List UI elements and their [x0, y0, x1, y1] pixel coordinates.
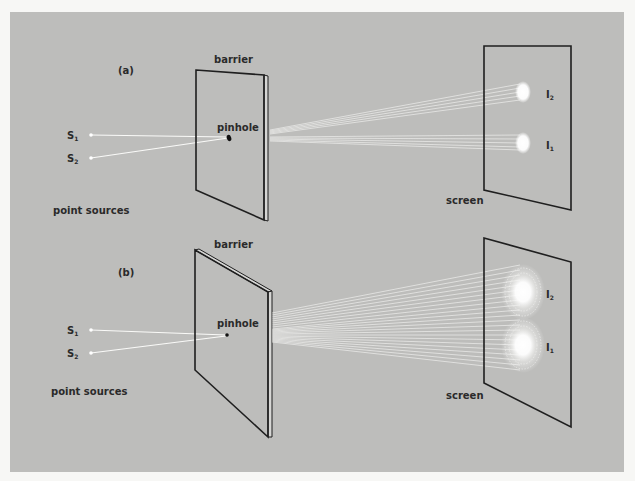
- source-s1-dot: [89, 133, 93, 137]
- barrier-label: barrier: [214, 239, 253, 250]
- point-sources-label: point sources: [51, 386, 127, 397]
- figure: (a) S1 S2 point sources barrier pinhole: [0, 0, 635, 481]
- source-s1-dot: [89, 328, 93, 332]
- image-spot-i2: [515, 81, 531, 103]
- blurred-images: [501, 264, 545, 373]
- barrier-top-edge: [195, 249, 272, 292]
- beam-to-i2: [270, 84, 520, 134]
- image-i1-label: I1: [546, 342, 554, 354]
- source-s2-dot: [89, 156, 93, 160]
- ray-s1-to-pinhole: [91, 330, 226, 335]
- screen: [484, 46, 571, 210]
- source-s1-label: S1: [67, 325, 78, 337]
- pinhole: [225, 333, 229, 337]
- image-i2-label: I2: [546, 289, 554, 301]
- ray-s1-to-pinhole: [91, 135, 228, 137]
- panel-b: (b) S1 S2 point sources barrier pinhole: [51, 238, 571, 437]
- image-i1-label: I1: [546, 140, 554, 152]
- point-sources-label: point sources: [53, 205, 129, 216]
- beam-to-i1: [270, 135, 520, 150]
- screen-label: screen: [446, 390, 484, 401]
- pinhole-label: pinhole: [217, 122, 259, 133]
- image-spot-i1: [515, 132, 531, 154]
- image-spot-i1: [501, 317, 545, 373]
- source-s1-label: S1: [67, 130, 78, 142]
- source-s2-label: S2: [67, 153, 78, 165]
- barrier: [196, 70, 264, 220]
- panel-a-tag: (a): [118, 65, 134, 76]
- source-s2-dot: [89, 351, 93, 355]
- pinhole-diagram: (a) S1 S2 point sources barrier pinhole: [0, 0, 635, 481]
- source-s2-label: S2: [67, 348, 78, 360]
- beam-fan: [272, 265, 520, 370]
- barrier-label: barrier: [214, 54, 253, 65]
- panel-b-tag: (b): [118, 267, 134, 278]
- panel-a: (a) S1 S2 point sources barrier pinhole: [53, 46, 571, 221]
- screen-label: screen: [446, 195, 484, 206]
- image-i2-label: I2: [546, 89, 554, 101]
- ray-s2-to-pinhole: [91, 336, 226, 353]
- barrier: [195, 250, 268, 437]
- pinhole-label: pinhole: [217, 318, 259, 329]
- image-spot-i2: [501, 264, 545, 320]
- ray-s2-to-pinhole: [91, 138, 228, 158]
- pinhole: [226, 134, 232, 142]
